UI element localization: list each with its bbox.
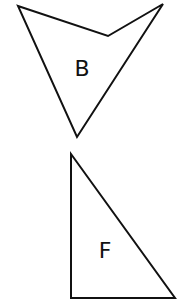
shape-b-outline	[18, 4, 163, 137]
shapes-diagram: B F	[0, 0, 177, 305]
shape-f-label: F	[99, 238, 112, 263]
shape-b-label: B	[74, 56, 89, 81]
shape-f-outline	[71, 154, 175, 298]
